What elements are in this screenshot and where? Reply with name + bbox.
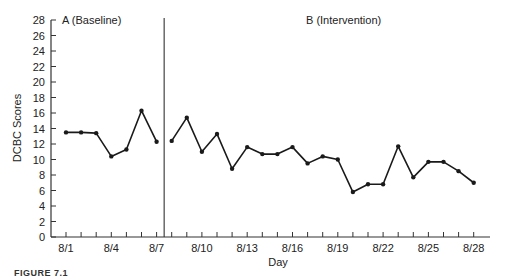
x-tick-label: 8/16	[282, 242, 303, 254]
data-point	[79, 130, 83, 134]
y-tick-label: 14	[33, 123, 45, 135]
data-point	[351, 190, 355, 194]
y-tick-label: 4	[39, 200, 45, 212]
data-point	[321, 154, 325, 158]
data-point	[245, 145, 249, 149]
data-point	[215, 132, 219, 136]
y-tick-label: 6	[39, 185, 45, 197]
data-point	[426, 160, 430, 164]
phase-b-label: B (Intervention)	[306, 14, 381, 26]
x-tick-label: 8/22	[372, 242, 393, 254]
y-tick-label: 8	[39, 169, 45, 181]
chart-canvas: 02468101214161820222426288/18/48/78/108/…	[0, 0, 506, 280]
data-point	[275, 152, 279, 156]
y-axis-label: DCBC Scores	[11, 93, 23, 162]
figure-caption: FIGURE 7.1	[14, 268, 68, 278]
data-point	[381, 182, 385, 186]
y-tick-label: 0	[39, 231, 45, 243]
y-tick-label: 16	[33, 107, 45, 119]
line-chart: 02468101214161820222426288/18/48/78/108/…	[0, 0, 506, 280]
y-tick-label: 2	[39, 216, 45, 228]
data-series	[64, 108, 476, 194]
axes: 02468101214161820222426288/18/48/78/108/…	[33, 14, 490, 254]
x-tick-label: 8/4	[104, 242, 119, 254]
data-point	[109, 154, 113, 158]
y-tick-label: 22	[33, 61, 45, 73]
data-point	[411, 175, 415, 179]
x-tick-label: 8/28	[463, 242, 484, 254]
data-point	[290, 145, 294, 149]
x-tick-label: 8/7	[149, 242, 164, 254]
data-point	[396, 144, 400, 148]
y-tick-label: 26	[33, 30, 45, 42]
data-point	[185, 115, 189, 119]
y-tick-label: 28	[33, 14, 45, 26]
data-point	[154, 139, 158, 143]
data-point	[230, 167, 234, 171]
data-point	[200, 150, 204, 154]
data-point	[305, 161, 309, 165]
data-point	[472, 181, 476, 185]
phase-a-label: A (Baseline)	[62, 14, 121, 26]
x-tick-label: 8/19	[327, 242, 348, 254]
data-point	[456, 169, 460, 173]
x-tick-label: 8/1	[58, 242, 73, 254]
data-point	[336, 157, 340, 161]
y-tick-label: 10	[33, 154, 45, 166]
x-axis-label: Day	[268, 256, 288, 268]
y-tick-label: 18	[33, 92, 45, 104]
data-point	[441, 160, 445, 164]
y-tick-label: 20	[33, 76, 45, 88]
data-point	[64, 130, 68, 134]
x-tick-label: 8/10	[191, 242, 212, 254]
data-point	[170, 139, 174, 143]
data-point	[260, 152, 264, 156]
y-tick-label: 12	[33, 138, 45, 150]
data-point	[366, 182, 370, 186]
data-point	[139, 108, 143, 112]
data-point	[94, 131, 98, 135]
y-tick-label: 24	[33, 45, 45, 57]
x-tick-label: 8/25	[418, 242, 439, 254]
x-tick-label: 8/13	[236, 242, 257, 254]
data-point	[124, 147, 128, 151]
